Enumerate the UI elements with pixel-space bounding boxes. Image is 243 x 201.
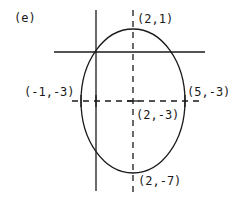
- label-bottom-vertex: (2,-7): [138, 174, 181, 188]
- panel-label: (e): [14, 11, 36, 25]
- label-top-vertex: (2,1): [137, 12, 173, 26]
- label-center: (2,-3): [136, 108, 179, 122]
- ellipse-diagram: (e) (2,1) (-1,-3) (5,-3) (2,-3) (2,-7): [0, 0, 243, 201]
- label-right-point: (5,-3): [187, 85, 230, 99]
- label-left-point: (-1,-3): [24, 85, 75, 99]
